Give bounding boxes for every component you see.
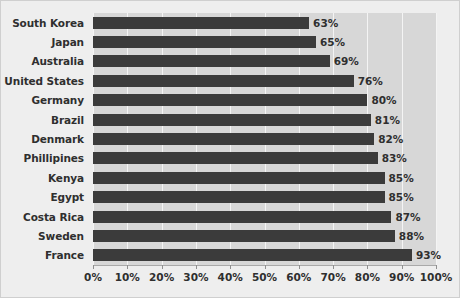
bar: 85%: [93, 172, 385, 184]
x-axis-tick: [196, 265, 197, 269]
bar-row: 80%: [93, 91, 436, 110]
x-axis-tick-label: 70%: [321, 271, 346, 283]
bar-series: 63%65%69%76%80%81%82%83%85%85%87%88%93%: [93, 13, 436, 265]
category-label: Australia: [1, 52, 89, 71]
category-label: Egypt: [1, 188, 89, 207]
bar-row: 83%: [93, 149, 436, 168]
category-axis: South KoreaJapanAustraliaUnited StatesGe…: [1, 13, 89, 265]
category-label: Kenya: [1, 168, 89, 187]
x-axis-tick-label: 100%: [420, 271, 452, 283]
bar: 83%: [93, 152, 378, 164]
bar: 80%: [93, 94, 367, 106]
bar-value-label: 65%: [320, 36, 345, 48]
bar-value-label: 69%: [334, 55, 359, 67]
category-label: Brazil: [1, 110, 89, 129]
x-axis-tick: [162, 265, 163, 269]
bar-row: 65%: [93, 32, 436, 51]
bar: 76%: [93, 75, 354, 87]
bar-row: 82%: [93, 129, 436, 148]
x-axis-tick: [265, 265, 266, 269]
bar-chart: South KoreaJapanAustraliaUnited StatesGe…: [0, 0, 460, 298]
x-axis-tick-label: 20%: [149, 271, 174, 283]
bar-row: 88%: [93, 226, 436, 245]
x-axis-tick: [402, 265, 403, 269]
bar-value-label: 63%: [313, 17, 338, 29]
category-label: Japan: [1, 32, 89, 51]
bar-row: 76%: [93, 71, 436, 90]
bar: 88%: [93, 230, 395, 242]
category-label: Germany: [1, 91, 89, 110]
bar: 82%: [93, 133, 374, 145]
x-axis-tick: [436, 265, 437, 269]
bar-row: 87%: [93, 207, 436, 226]
bar-value-label: 85%: [389, 172, 414, 184]
bar-value-label: 93%: [416, 249, 441, 261]
category-label: South Korea: [1, 13, 89, 32]
x-axis-tick: [93, 265, 94, 269]
x-axis-tick: [230, 265, 231, 269]
bar: 65%: [93, 36, 316, 48]
x-axis-tick-label: 0%: [84, 271, 102, 283]
x-axis-tick-label: 40%: [218, 271, 243, 283]
bar: 81%: [93, 114, 371, 126]
bar-value-label: 85%: [389, 191, 414, 203]
x-axis-tick-label: 60%: [286, 271, 311, 283]
bar-row: 69%: [93, 52, 436, 71]
bar-value-label: 81%: [375, 114, 400, 126]
bar-row: 81%: [93, 110, 436, 129]
bar-value-label: 80%: [371, 94, 396, 106]
bar-row: 85%: [93, 188, 436, 207]
bar: 63%: [93, 17, 309, 29]
plot-area: 63%65%69%76%80%81%82%83%85%85%87%88%93%: [93, 13, 436, 265]
category-label: Phillipines: [1, 149, 89, 168]
bar-value-label: 87%: [395, 211, 420, 223]
bar-value-label: 76%: [358, 75, 383, 87]
bar-row: 85%: [93, 168, 436, 187]
bar-value-label: 83%: [382, 152, 407, 164]
x-axis: 0%10%20%30%40%50%60%70%80%90%100%: [93, 265, 436, 289]
bar: 69%: [93, 55, 330, 67]
category-label: Sweden: [1, 226, 89, 245]
bar-value-label: 88%: [399, 230, 424, 242]
bar: 85%: [93, 191, 385, 203]
bar: 93%: [93, 249, 412, 261]
bar-value-label: 82%: [378, 133, 403, 145]
x-axis-tick-label: 10%: [115, 271, 140, 283]
x-axis-tick-label: 90%: [389, 271, 414, 283]
bar: 87%: [93, 211, 391, 223]
x-axis-tick-label: 80%: [355, 271, 380, 283]
x-axis-tick: [333, 265, 334, 269]
category-label: Denmark: [1, 129, 89, 148]
x-axis-tick-label: 50%: [252, 271, 277, 283]
x-axis-tick: [367, 265, 368, 269]
category-label: United States: [1, 71, 89, 90]
x-axis-tick: [299, 265, 300, 269]
bar-row: 63%: [93, 13, 436, 32]
x-axis-tick-label: 30%: [183, 271, 208, 283]
category-label: France: [1, 246, 89, 265]
gridline: [436, 13, 437, 265]
bar-row: 93%: [93, 246, 436, 265]
x-axis-tick: [127, 265, 128, 269]
category-label: Costa Rica: [1, 207, 89, 226]
